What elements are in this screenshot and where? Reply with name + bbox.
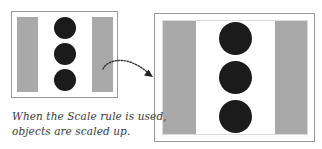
original-left-gray-bar [17, 17, 38, 92]
original-right-gray-bar [92, 17, 113, 92]
original-circle-top [54, 17, 76, 39]
scaled-circle-top [219, 22, 252, 55]
original-panel [11, 11, 118, 98]
scaled-panel [154, 13, 315, 142]
scaled-circle-middle [219, 61, 252, 94]
caption: When the Scale rule is used, objects are… [12, 109, 162, 139]
original-circle-bottom [54, 69, 76, 91]
original-circle-middle [54, 43, 76, 65]
scaled-circle-bottom [219, 100, 252, 133]
arrowhead-icon [144, 70, 153, 78]
scaled-right-gray-bar [275, 21, 307, 134]
scaled-left-gray-bar [163, 21, 196, 134]
caption-line-1: When the Scale rule is used, [12, 109, 162, 124]
caption-line-2: objects are scaled up. [12, 124, 162, 139]
scaled-panel-inner-frame [162, 20, 308, 135]
